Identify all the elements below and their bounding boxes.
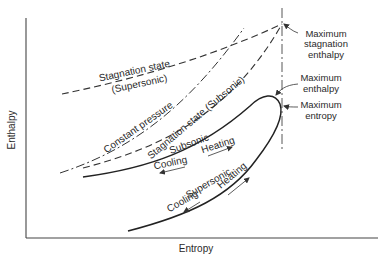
x-axis-label: Entropy — [179, 243, 213, 254]
max-enthalpy-line-1: Maximum — [300, 72, 341, 83]
rayleigh-line-diagram: Entropy Enthalpy Stagnation state (Super… — [0, 0, 387, 262]
max-enthalpy-leader — [276, 84, 298, 95]
max-entropy-leader — [284, 106, 298, 107]
stagnation-supersonic-curve — [62, 24, 282, 94]
supersonic-cooling-label: Cooling — [165, 188, 200, 214]
max-entropy-line-2: entropy — [305, 110, 337, 121]
max-stagnation-enthalpy-line-3: enthalpy — [308, 49, 344, 60]
subsonic-cooling-label: Cooling — [153, 154, 188, 172]
max-enthalpy-line-2: enthalpy — [303, 83, 339, 94]
max-stagnation-enthalpy-line-2: stagnation — [304, 38, 348, 49]
y-axis-label: Enthalpy — [6, 111, 17, 150]
max-entropy-line-1: Maximum — [300, 99, 341, 110]
max-stagnation-enthalpy-leader — [284, 24, 298, 33]
